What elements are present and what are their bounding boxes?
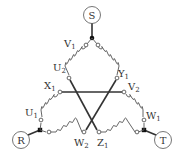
lead-s-v1 (87, 38, 92, 44)
coil-v2-w1 (126, 94, 143, 117)
end-v1 (84, 43, 88, 47)
wire-u2-z1 (70, 80, 97, 130)
terminal-t-label: T (160, 135, 167, 146)
label-u2: U2 (53, 62, 66, 75)
end-w2 (82, 130, 86, 134)
terminal-r-label: R (17, 135, 25, 146)
end-z1 (97, 130, 101, 134)
end-r-right (47, 130, 51, 134)
end-u2 (67, 76, 71, 80)
label-v1: V1 (63, 38, 76, 51)
end-s-right (96, 43, 100, 47)
terminal-t: T (142, 128, 172, 149)
end-u1 (39, 118, 43, 122)
terminal-r: R (13, 128, 43, 149)
coil-x1-u1 (41, 94, 58, 117)
label-v2: V2 (127, 81, 140, 94)
terminal-s: S (84, 7, 101, 41)
label-w1: W1 (146, 110, 161, 123)
delta-winding-diagram: S R T V1 (0, 0, 183, 163)
end-t-left (135, 130, 139, 134)
lead-s-y (92, 38, 97, 44)
label-u1: U1 (25, 107, 38, 120)
coil-s-y1 (98, 46, 119, 75)
end-x1 (58, 90, 62, 94)
label-x1: X1 (44, 80, 56, 93)
label-w2: W2 (74, 137, 89, 150)
wire-y1-w2 (86, 80, 116, 130)
terminal-s-label: S (89, 10, 96, 21)
end-v2 (122, 90, 126, 94)
coil-z1-t (101, 118, 135, 132)
coil-r-w2 (51, 118, 82, 132)
label-z1: Z1 (97, 137, 108, 150)
